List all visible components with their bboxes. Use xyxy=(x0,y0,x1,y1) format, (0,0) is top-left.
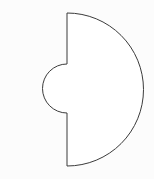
figure-canvas: Semicircle with semicircular notch A sol… xyxy=(0,0,154,179)
notched-semicircle-shape xyxy=(43,13,144,166)
shape-svg: Semicircle with semicircular notch A sol… xyxy=(0,0,154,179)
